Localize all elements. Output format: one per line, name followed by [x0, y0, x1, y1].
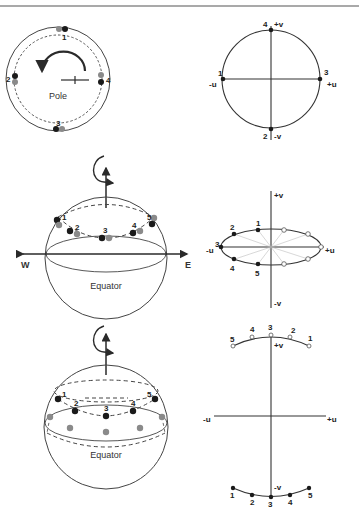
point-3-label: 3	[215, 240, 220, 249]
top-point-4-label: 4	[250, 325, 255, 334]
gray-point	[47, 414, 53, 420]
point-2-black	[72, 408, 78, 414]
neg-u-label: -u	[203, 415, 211, 424]
top-point-1-label: 1	[308, 334, 313, 343]
spin-arrow-icon	[94, 156, 114, 183]
west-label: W	[21, 260, 30, 270]
open-point	[282, 228, 287, 233]
point-4-dot	[232, 257, 237, 262]
panel-mid-uv: 1 2 3 4 5 +v -v -u +u	[206, 191, 335, 308]
bottom-point-2-label: 2	[250, 498, 255, 507]
pos-v-label: +v	[274, 20, 284, 29]
east-label: E	[185, 260, 191, 270]
bottom-point-1-label: 1	[230, 491, 235, 500]
pole-label: Pole	[49, 91, 67, 101]
pole-curved-arrow-icon	[42, 52, 85, 71]
point-1-label: 1	[62, 33, 67, 42]
bottom-point-2	[250, 493, 254, 497]
point-4-gray	[98, 72, 104, 78]
open-point	[288, 335, 292, 339]
point-4-black	[130, 230, 136, 236]
bottom-point-1	[231, 486, 235, 490]
point-2-label: 2	[263, 132, 268, 141]
open-point	[231, 344, 235, 348]
pos-v-label: +v	[274, 341, 284, 350]
point-5-label: 5	[147, 213, 152, 222]
neg-u-label: -u	[209, 80, 217, 89]
point-1-gray	[56, 222, 62, 228]
point-4-label: 4	[263, 20, 268, 29]
top-point-5-label: 5	[230, 335, 235, 344]
bottom-point-3	[269, 495, 273, 499]
point-1-dot	[256, 228, 261, 233]
point-5-gray	[151, 215, 157, 221]
top-point-2-label: 2	[291, 326, 296, 335]
gray-point	[103, 429, 109, 435]
pos-u-label: +u	[325, 246, 335, 255]
equator-label: Equator	[90, 450, 122, 460]
dashed-orbit	[14, 35, 102, 123]
point-2-dot	[232, 232, 237, 237]
open-point	[269, 333, 273, 337]
point-5-label: 5	[255, 269, 260, 278]
pos-u-label: +u	[327, 80, 337, 89]
bottom-point-5-label: 5	[308, 491, 313, 500]
point-4-label: 4	[132, 221, 137, 230]
point-2-black	[67, 228, 73, 234]
point-2-label: 2	[75, 223, 80, 232]
point-2-gray	[12, 79, 18, 85]
point-1-label: 1	[256, 219, 261, 228]
point-4-gray	[137, 228, 143, 234]
panel-low-sphere: Equator 1 2 3 4 5	[44, 326, 168, 489]
open-point	[306, 232, 311, 237]
point-3-dot	[318, 77, 323, 82]
gray-point	[159, 414, 165, 420]
spin-arrow-icon	[94, 326, 114, 353]
point-4-black	[130, 408, 136, 414]
point-3-label: 3	[104, 404, 109, 413]
point-3-black	[103, 413, 109, 419]
panel-pole-uv: 4 +v 1 -u 3 +u 2 -v	[209, 20, 337, 141]
point-5-label: 5	[147, 390, 152, 399]
point-4-label: 4	[131, 399, 136, 408]
point-1-label: 1	[62, 213, 67, 222]
latitude-upper-dashed	[54, 380, 158, 402]
point-4-dot	[269, 28, 274, 33]
bottom-point-4-label: 4	[288, 498, 293, 507]
point-3-label: 3	[103, 226, 108, 235]
bottom-point-4	[288, 493, 292, 497]
point-3-label: 3	[56, 119, 61, 128]
gray-point	[137, 425, 143, 431]
point-1-black	[62, 26, 68, 32]
point-4-black	[98, 79, 104, 85]
point-2-label: 2	[6, 75, 11, 84]
bottom-point-3-label: 3	[268, 500, 273, 509]
figure-canvas: Pole 1 2 4 3 4 +v 1 -u 3 +u 2 -v	[0, 0, 359, 525]
point-5-dot	[256, 262, 261, 267]
top-point-3-label: 3	[268, 323, 273, 332]
point-4-label: 4	[230, 264, 235, 273]
neg-v-label: -v	[274, 299, 282, 308]
point-1-black	[55, 396, 61, 402]
equator-label: Equator	[90, 281, 122, 291]
point-1-label: 1	[218, 69, 223, 78]
point-4-label: 4	[106, 76, 111, 85]
point-2-dot	[269, 127, 274, 132]
neg-u-label: -u	[206, 246, 214, 255]
open-point	[282, 262, 287, 267]
pos-u-label: +u	[327, 415, 337, 424]
point-1-label: 1	[62, 390, 67, 399]
point-2-black	[12, 73, 18, 79]
bottom-point-5	[307, 486, 311, 490]
point-1-gray	[56, 26, 62, 32]
point-2-label: 2	[74, 399, 79, 408]
open-point	[306, 257, 311, 262]
gray-point	[67, 425, 73, 431]
point-3-label: 3	[324, 68, 329, 77]
panel-mid-sphere: W E Equator 1 2 3 4 5	[21, 156, 191, 319]
neg-v-label: -v	[274, 132, 282, 141]
open-point	[319, 245, 324, 250]
neg-v-label: -v	[274, 483, 282, 492]
panel-low-uv: 5 4 3 2 1 +v 1 2 3 4 5 -v -u +u	[203, 323, 337, 509]
open-point	[307, 344, 311, 348]
